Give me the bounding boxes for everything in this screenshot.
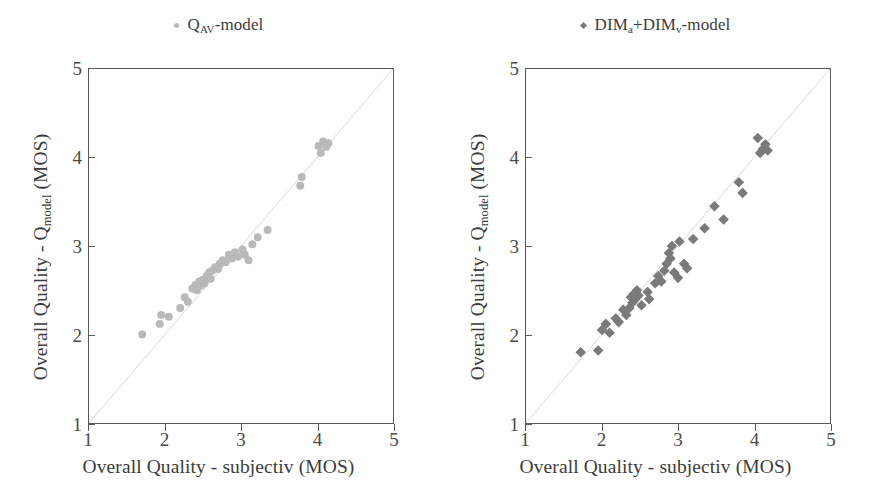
y-tick-label: 1 <box>73 415 83 434</box>
y-tick-mark <box>88 68 95 69</box>
y-axis-title-right-post: (MOS) <box>467 134 488 195</box>
data-points-group <box>575 133 773 358</box>
legend-left-sub: AV <box>200 23 215 35</box>
x-tick-mark <box>241 424 242 431</box>
data-point <box>176 304 184 312</box>
x-tick-label: 5 <box>826 430 836 449</box>
x-tick-mark <box>678 424 679 431</box>
y-tick-label: 2 <box>510 326 520 345</box>
y-tick-mark <box>88 335 95 336</box>
y-tick-label: 4 <box>73 148 83 167</box>
x-tick-label: 3 <box>236 430 246 449</box>
legend-right-post: -model <box>682 15 731 34</box>
panel-left: QAV-model 12345 12345 Overall Quality - … <box>0 0 437 502</box>
y-axis-title-right-sub: model <box>477 194 491 226</box>
legend-label-right: DIMa+DIMv-model <box>595 15 731 35</box>
data-point <box>138 331 146 339</box>
x-axis-title-right: Overall Quality - subjectiv (MOS) <box>437 456 874 478</box>
data-point <box>718 214 729 225</box>
y-axis-title-left-post: (MOS) <box>30 134 51 195</box>
y-tick-label: 5 <box>510 59 520 78</box>
data-point <box>688 234 699 245</box>
data-point <box>699 223 710 234</box>
y-axis-title-right-pre: Overall Quality - Q <box>467 226 488 380</box>
x-tick-labels-right: 12345 <box>525 430 831 456</box>
x-tick-mark <box>755 424 756 431</box>
x-tick-mark <box>88 424 89 431</box>
scatter-figure: QAV-model 12345 12345 Overall Quality - … <box>0 0 874 502</box>
identity-line <box>526 69 830 423</box>
x-axis-title-left: Overall Quality - subjectiv (MOS) <box>0 456 437 478</box>
plot-area-left <box>88 68 394 424</box>
legend-left-pre: Q <box>188 15 200 34</box>
x-tick-label: 2 <box>160 430 170 449</box>
y-tick-label: 5 <box>73 59 83 78</box>
x-tick-labels-left: 12345 <box>88 430 394 456</box>
y-tick-label: 3 <box>510 237 520 256</box>
y-tick-label: 4 <box>510 148 520 167</box>
x-tick-mark <box>318 424 319 431</box>
legend-right-sub2: v <box>676 23 682 35</box>
y-axis-title-left-pre: Overall Quality - Q <box>30 226 51 380</box>
data-point <box>264 226 272 234</box>
plot-svg-left <box>89 69 393 423</box>
y-axis-title-left-sub: model <box>40 194 54 226</box>
data-point <box>165 313 173 321</box>
x-tick-mark <box>525 424 526 431</box>
x-tick-label: 5 <box>389 430 399 449</box>
y-tick-mark <box>525 68 532 69</box>
data-point <box>644 294 655 305</box>
x-tick-mark <box>394 424 395 431</box>
data-point <box>324 139 332 147</box>
y-tick-label: 1 <box>510 415 520 434</box>
legend-marker-circle-icon <box>174 23 179 28</box>
y-tick-mark <box>525 157 532 158</box>
data-point <box>207 275 215 283</box>
panel-right: DIMa+DIMv-model 12345 12345 Overall Qual… <box>437 0 874 502</box>
data-point <box>157 311 165 319</box>
data-point <box>317 149 325 157</box>
data-point <box>575 347 586 358</box>
plot-area-right <box>525 68 831 424</box>
legend-label-left: QAV-model <box>188 15 264 35</box>
y-axis-title-right: Overall Quality - Qmodel (MOS) <box>467 77 489 437</box>
data-point <box>254 233 262 241</box>
legend-left-post: -model <box>215 15 264 34</box>
data-point <box>184 298 192 306</box>
x-tick-mark <box>165 424 166 431</box>
x-tick-label: 1 <box>520 430 530 449</box>
data-points-group <box>138 138 332 339</box>
y-tick-labels-right: 12345 <box>489 68 519 424</box>
x-tick-mark <box>602 424 603 431</box>
legend-marker-diamond-icon <box>580 21 587 28</box>
y-axis-title-left: Overall Quality - Qmodel (MOS) <box>30 77 52 437</box>
data-point <box>753 133 764 144</box>
y-tick-mark <box>88 157 95 158</box>
x-tick-label: 4 <box>313 430 323 449</box>
data-point <box>245 256 253 264</box>
y-tick-mark <box>525 335 532 336</box>
x-tick-label: 1 <box>83 430 93 449</box>
data-point <box>709 201 720 212</box>
legend-left: QAV-model <box>0 14 437 36</box>
x-tick-label: 3 <box>673 430 683 449</box>
legend-right-mid: +DIM <box>633 15 676 34</box>
x-tick-label: 2 <box>597 430 607 449</box>
data-point <box>296 182 304 190</box>
y-tick-label: 3 <box>73 237 83 256</box>
data-point <box>248 240 256 248</box>
data-point <box>737 188 748 199</box>
legend-right-sub: a <box>628 23 633 35</box>
data-point <box>593 345 604 356</box>
y-tick-labels-left: 12345 <box>52 68 82 424</box>
data-point <box>734 177 745 188</box>
y-tick-mark <box>88 246 95 247</box>
x-tick-label: 4 <box>750 430 760 449</box>
plot-svg-right <box>526 69 830 423</box>
data-point <box>234 253 242 261</box>
y-tick-label: 2 <box>73 326 83 345</box>
data-point <box>156 320 164 328</box>
data-point <box>298 173 306 181</box>
y-tick-mark <box>525 246 532 247</box>
legend-right-pre: DIM <box>595 15 628 34</box>
